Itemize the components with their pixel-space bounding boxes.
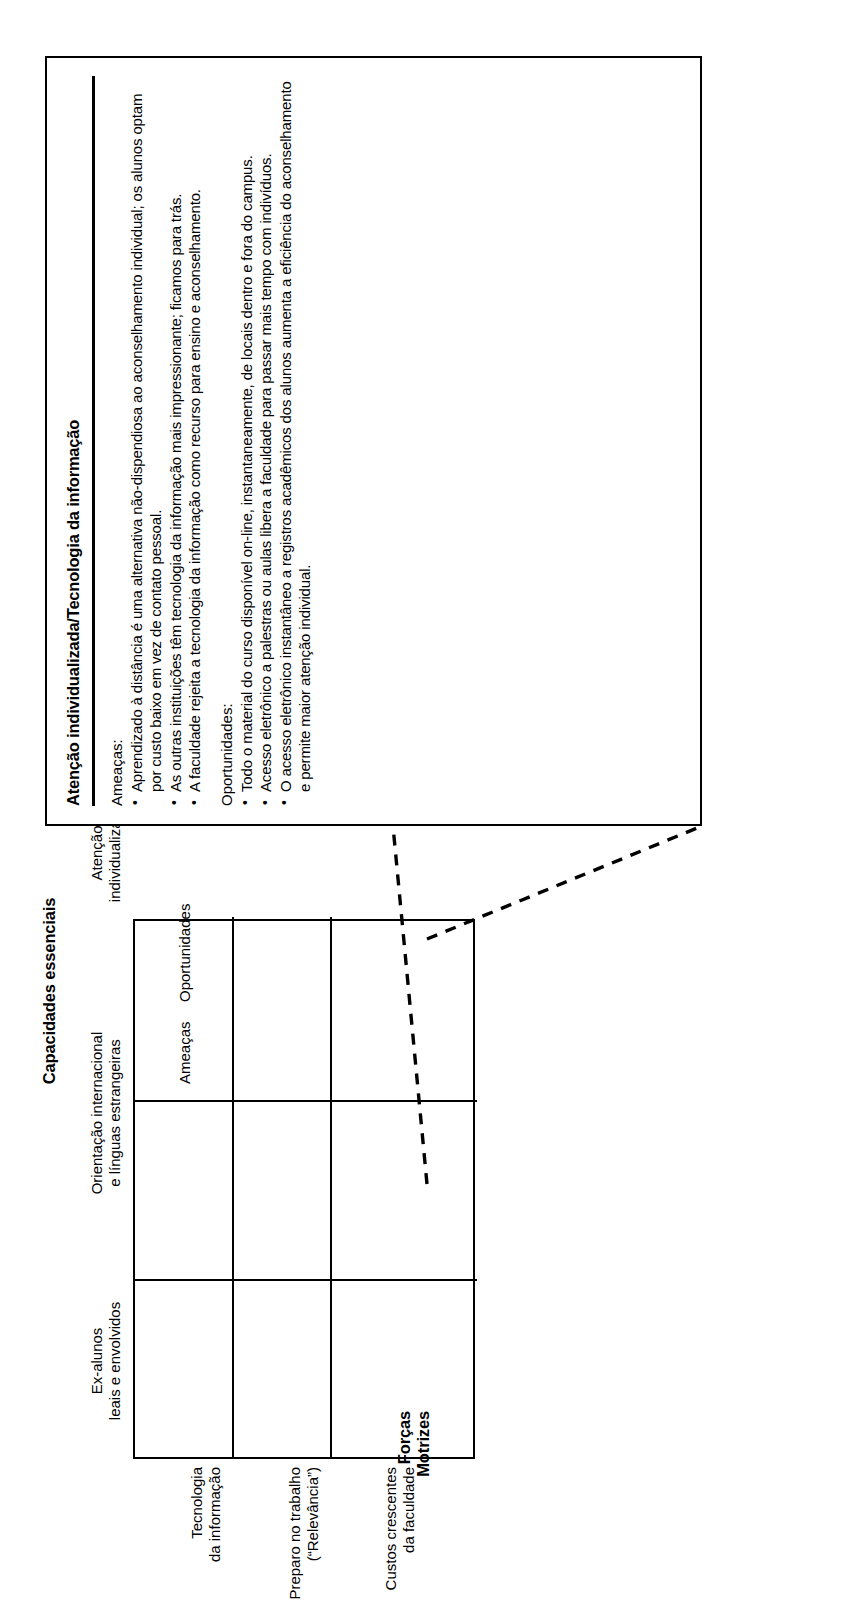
column-header-0: Ex-alunos leais e envolvidos — [88, 1266, 124, 1456]
callout-opportunities-label: Oportunidades: — [217, 76, 236, 806]
callout-title: Atenção individualizada/Tecnologia da in… — [63, 76, 83, 806]
detail-callout: Atenção individualizada/Tecnologia da in… — [45, 56, 702, 826]
matrix-row-divider-1 — [232, 917, 234, 1457]
cell-label-opportunities: Oportunidades — [175, 904, 195, 1002]
list-item: Aprendizado à distância é uma alternativ… — [127, 76, 166, 806]
row-header-0: Tecnologia da informação — [188, 1467, 224, 1616]
list-item: O acesso eletrônico instantâneo a regist… — [276, 76, 315, 806]
matrix-row-divider-2 — [330, 917, 332, 1457]
list-item: As outras instituições têm tecnologia da… — [166, 76, 186, 806]
column-header-1: Orientação internacional e línguas estra… — [88, 1018, 124, 1208]
list-item: A faculdade rejeita a tecnologia da info… — [185, 76, 205, 806]
callout-threats-list: Aprendizado à distância é uma alternativ… — [127, 76, 205, 806]
matrix-col-divider-1 — [135, 1279, 477, 1281]
column-group-title: Capacidades essenciais — [40, 861, 58, 1121]
matrix-col-divider-2 — [135, 1100, 477, 1102]
list-item: Acesso eletrônico a palestras ou aulas l… — [256, 76, 276, 806]
list-item: Todo o material do curso disponível on-l… — [237, 76, 257, 806]
callout-opportunities-list: Todo o material do curso disponível on-l… — [237, 76, 315, 806]
callout-threats-label: Ameaças: — [107, 76, 126, 806]
row-header-1: Preparo no trabalho (“Relevância”) — [286, 1467, 322, 1616]
diagram-canvas: Capacidades essenciais Ex-alunos leais e… — [0, 0, 846, 1616]
row-header-2: Custos crescentes da faculdade — [382, 1467, 418, 1616]
rotated-diagram-stage: Capacidades essenciais Ex-alunos leais e… — [0, 0, 846, 1616]
cell-label-threats: Ameaças — [175, 1021, 195, 1084]
callout-title-rule — [92, 76, 95, 806]
